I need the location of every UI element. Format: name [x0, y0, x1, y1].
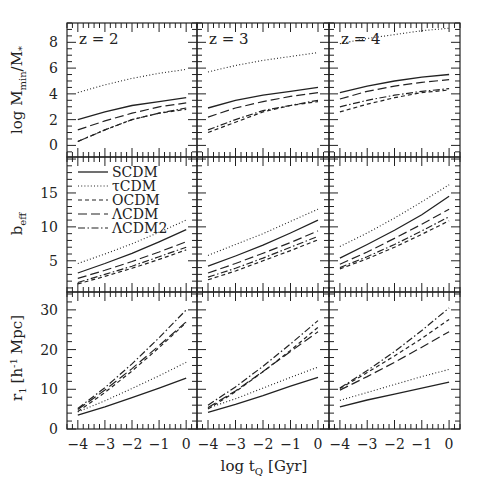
curve-τCDM [208, 367, 318, 408]
panel-label-z: z = 2 [79, 30, 119, 48]
curve-ΛCDM2 [78, 247, 186, 282]
x-tick-label: −4 [198, 436, 219, 452]
x-tick-label: −3 [225, 436, 246, 452]
x-tick-label: −3 [95, 436, 116, 452]
curve-OCDM [208, 327, 318, 409]
curve-OCDM [78, 109, 186, 141]
x-tick-label: −2 [122, 436, 143, 452]
curve-ΛCDM [208, 93, 318, 118]
curve-ΛCDM [208, 231, 318, 273]
y-axis-title-beff: beff [8, 212, 28, 236]
curve-τCDM [340, 185, 449, 247]
legend-label: ΛCDM2 [111, 220, 167, 236]
curve-τCDM [208, 209, 318, 255]
panel-label-z: z = 3 [209, 30, 249, 48]
curve-SCDM [340, 196, 449, 258]
x-tick-label: −3 [357, 436, 378, 452]
curve-OCDM [340, 90, 449, 112]
x-tick-label: −1 [280, 436, 301, 452]
curve-ΛCDM2 [208, 321, 318, 406]
figure: 02468510150102030−4−3−2−10−4−3−2−10−4−3−… [0, 0, 479, 497]
curve-SCDM [340, 75, 449, 93]
panel-frame [329, 157, 460, 292]
y-tick-label: 0 [49, 421, 58, 437]
curve-ΛCDM [340, 209, 449, 264]
x-tick-label: −4 [330, 436, 351, 452]
curve-τCDM [208, 53, 318, 72]
y-tick-label: 5 [49, 253, 58, 269]
curve-τCDM [78, 362, 186, 412]
curve-SCDM [78, 98, 186, 120]
y-tick-label: 6 [49, 60, 58, 76]
curve-ΛCDM2 [208, 100, 318, 130]
panel-frame [67, 292, 197, 429]
legend: SCDMτCDMOCDMΛCDMΛCDM2 [78, 164, 167, 236]
x-tick-label: 0 [445, 436, 454, 452]
x-tick-label: −2 [253, 436, 274, 452]
curve-τCDM [340, 369, 449, 400]
panel-frame [197, 292, 329, 429]
curve-ΛCDM2 [208, 236, 318, 277]
y-axis-title-r1: r1[h-1Mpc] [8, 315, 28, 401]
x-tick-label: −4 [68, 436, 89, 452]
x-tick-label: 0 [314, 436, 323, 452]
x-tick-label: −1 [411, 436, 432, 452]
y-tick-label: 4 [49, 86, 58, 102]
y-axis-title-mmin: log Mmin/M* [8, 46, 28, 134]
curve-SCDM [340, 382, 449, 407]
curve-ΛCDM2 [340, 217, 449, 268]
curve-τCDM [78, 69, 186, 92]
panel-frame [329, 292, 460, 429]
y-tick-label: 2 [49, 112, 58, 128]
x-axis-title: log tQ[Gyr] [221, 457, 308, 477]
y-tick-label: 10 [40, 381, 58, 397]
curve-ΛCDM [78, 103, 186, 130]
y-tick-label: 30 [40, 302, 58, 318]
y-tick-label: 15 [40, 185, 58, 201]
x-tick-label: 0 [182, 436, 191, 452]
curve-ΛCDM [340, 332, 449, 390]
curve-ΛCDM [78, 242, 186, 279]
y-tick-label: 10 [40, 219, 58, 235]
x-tick-label: −2 [384, 436, 405, 452]
curve-SCDM [208, 87, 318, 108]
x-tick-label: −1 [149, 436, 170, 452]
y-tick-label: 0 [49, 137, 58, 153]
y-tick-label: 8 [49, 34, 58, 50]
curve-ΛCDM2 [78, 310, 186, 409]
curve-ΛCDM2 [340, 308, 449, 388]
panel-label-z: z = 4 [341, 30, 381, 48]
curve-OCDM [208, 102, 318, 133]
axis-tick-labels: 02468510150102030−4−3−2−10−4−3−2−10−4−3−… [40, 30, 453, 452]
y-tick-label: 20 [40, 342, 58, 358]
